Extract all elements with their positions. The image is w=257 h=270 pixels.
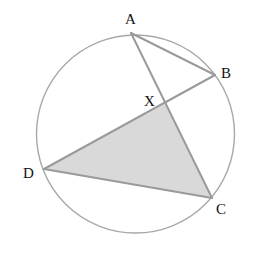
geometry-diagram: A B X D C [0, 0, 257, 270]
label-point-b: B [221, 65, 231, 81]
label-point-c: C [216, 201, 226, 217]
label-point-a: A [125, 11, 136, 27]
label-point-x: X [144, 93, 155, 109]
label-point-d: D [23, 165, 34, 181]
segment-ab [131, 33, 215, 75]
